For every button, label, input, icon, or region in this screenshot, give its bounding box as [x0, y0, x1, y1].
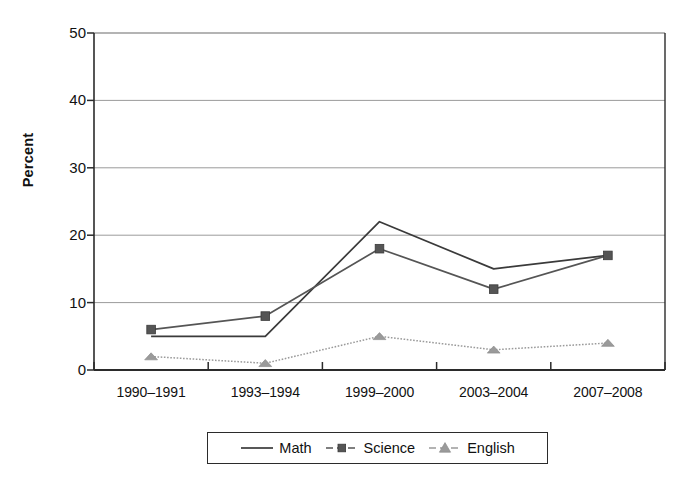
x-axis-tick-label: 1993–1994 [231, 384, 300, 400]
data-point-marker-english [373, 333, 386, 340]
data-point-marker-science [261, 312, 270, 321]
data-point-marker-english [487, 346, 500, 353]
series-line-english [151, 336, 608, 363]
legend-label: Math [279, 441, 311, 456]
line-plain-swatch [240, 441, 274, 455]
data-point-marker-english [602, 339, 615, 346]
plot-area [0, 0, 689, 491]
x-axis-tick-label: 2003–2004 [459, 384, 528, 400]
data-point-marker-science [375, 244, 384, 253]
x-axis-tick-label: 1999–2000 [345, 384, 414, 400]
legend-item-science[interactable]: Science [325, 441, 416, 456]
legend: MathScienceEnglish [207, 432, 548, 464]
legend-item-math[interactable]: Math [240, 441, 311, 456]
series-line-math [151, 222, 608, 337]
line-chart: Percent 01020304050 MathScienceEnglish 1… [0, 0, 689, 491]
legend-label: English [467, 441, 515, 456]
line-square-swatch [325, 441, 359, 455]
line-triangle-swatch [428, 441, 462, 455]
x-axis-tick-label: 1990–1991 [117, 384, 186, 400]
data-point-marker-science [147, 325, 156, 334]
x-axis-tick-label: 2007–2008 [573, 384, 642, 400]
data-point-marker-science [489, 285, 498, 294]
legend-item-english[interactable]: English [428, 441, 515, 456]
legend-label: Science [364, 441, 416, 456]
series-line-science [151, 249, 608, 330]
data-point-marker-science [604, 251, 613, 260]
